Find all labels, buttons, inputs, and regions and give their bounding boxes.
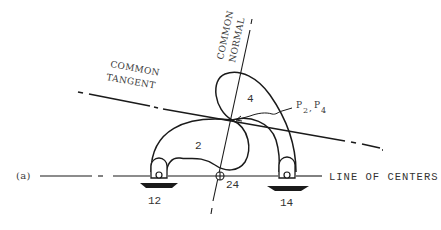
pivot-12 (140, 158, 178, 188)
svg-text:P: P (314, 100, 320, 110)
svg-text:P: P (296, 100, 302, 110)
panel-label: (a) (16, 170, 31, 181)
line-of-centers-label: LINE OF CENTERS (329, 171, 439, 183)
pivot-12-label: 12 (148, 195, 161, 207)
pivot-14 (267, 157, 309, 191)
contact-point-label: P 2 , P 4 (296, 100, 326, 115)
link-4-label: 4 (247, 93, 254, 105)
svg-text:,: , (309, 103, 312, 113)
pivot-14-label: 14 (280, 197, 294, 209)
instant-center-24 (216, 172, 224, 180)
instant-center-24-label: 24 (226, 179, 240, 191)
link-2-label: 2 (195, 140, 202, 152)
svg-text:2: 2 (303, 106, 308, 115)
mechanism-diagram: COMMON TANGENT COMMON NORMAL 4 2 P 2 , P… (0, 0, 441, 230)
svg-text:4: 4 (321, 106, 326, 115)
